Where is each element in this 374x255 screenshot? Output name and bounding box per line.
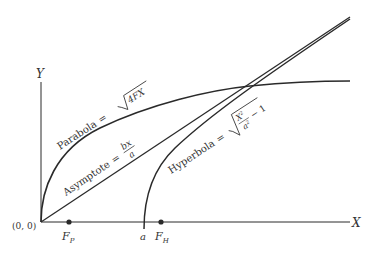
focus-parabola-dot xyxy=(66,219,71,224)
svg-text:Parabola=: Parabola= xyxy=(55,111,109,151)
y-axis-label: Y xyxy=(36,67,45,81)
focus-parabola-label: FP xyxy=(61,230,75,245)
focus-hyperbola-label: FH xyxy=(154,230,170,245)
parabola-label: Parabola= 4FX xyxy=(54,81,154,153)
conic-diagram: Y X (0, 0) FP FH a Parabola= 4FX Asympto… xyxy=(0,0,374,255)
svg-text:− 1: − 1 xyxy=(249,103,268,120)
asymptote-label: Asymptote= bx a xyxy=(57,137,140,203)
svg-text:Hyperbola=: Hyperbola= xyxy=(166,131,227,176)
asymptote-line xyxy=(41,17,350,222)
hyperbola-label: Hyperbola= X2 a2 − 1 xyxy=(162,97,271,178)
focus-hyperbola-dot xyxy=(158,219,163,224)
svg-text:4FX: 4FX xyxy=(125,86,147,105)
svg-text:a: a xyxy=(127,149,137,160)
origin-label: (0, 0) xyxy=(12,221,36,231)
x-axis-label: X xyxy=(351,216,361,230)
vertex-a-label: a xyxy=(140,231,146,242)
